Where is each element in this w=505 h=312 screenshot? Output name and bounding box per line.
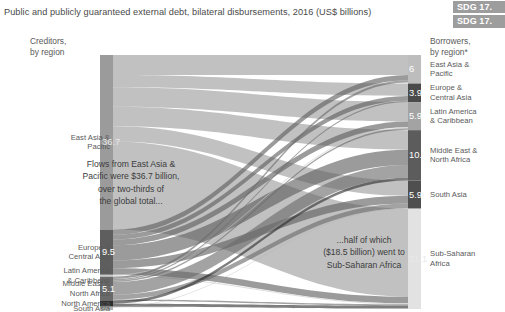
- creditor-label-5: South Asia: [73, 304, 110, 312]
- sdg-badge-group: SDG 17. SDG 17.: [453, 1, 505, 30]
- borrower-value-4: 5.9: [409, 190, 422, 199]
- borrower-value-3: 10.6: [409, 150, 427, 159]
- borrower-label-1: Europe & Central Asia: [430, 83, 471, 101]
- borrower-label-5: Sub-Saharan Africa: [430, 249, 475, 267]
- sdg-badge-1: SDG 17.: [453, 1, 505, 13]
- annotation-left-callout: Flows from East Asia & Pacific were $36.…: [58, 158, 204, 208]
- borrower-label-4: South Asia: [430, 190, 467, 199]
- sdg-badge-2: SDG 17.: [453, 15, 505, 27]
- annotation-right-callout: ...half of which ($18.5 billion) went to…: [296, 234, 432, 271]
- creditor-value-0: 36.7: [102, 137, 120, 146]
- sankey-link: [113, 55, 408, 75]
- page-title: Public and publicly guaranteed external …: [4, 7, 371, 17]
- creditor-value-1: 9.5: [102, 247, 115, 256]
- borrower-label-2: Latin America & Caribbean: [430, 107, 477, 125]
- borrower-label-3: Middle East & North Africa: [430, 146, 477, 164]
- borrower-value-2: 5.9: [409, 111, 422, 120]
- borrower-value-1: 3.9: [409, 88, 422, 97]
- sankey-figure: Public and publicly guaranteed external …: [0, 0, 505, 312]
- creditor-value-3: 5.1: [102, 284, 115, 293]
- borrower-label-0: East Asia & Pacific: [430, 60, 469, 78]
- borrower-value-0: 6: [409, 64, 414, 73]
